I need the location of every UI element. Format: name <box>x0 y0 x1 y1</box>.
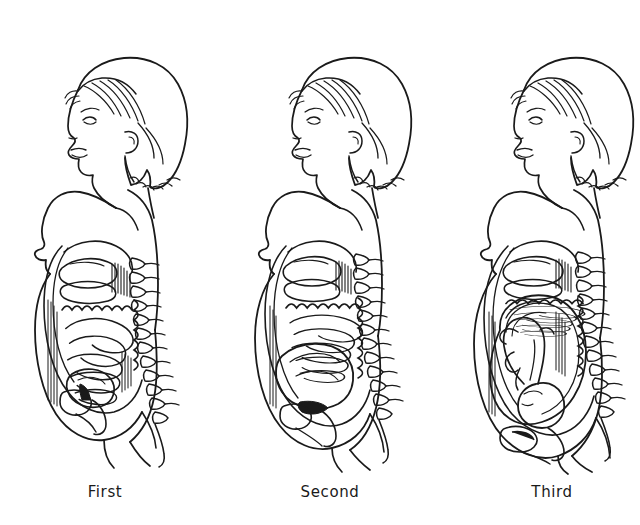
pregnancy-trimesters-drawing <box>0 0 640 525</box>
illustration-root: First Second Third <box>0 0 640 525</box>
